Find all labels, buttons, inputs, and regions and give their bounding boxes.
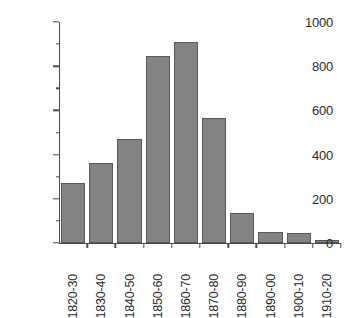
y-axis-tick-label: 800 — [312, 60, 333, 73]
bar — [230, 213, 254, 243]
y-axis-tick-label: 200 — [312, 192, 333, 205]
x-axis-tick — [256, 243, 257, 248]
x-axis-tick-label: 1870-80 — [208, 274, 221, 318]
y-axis-tick — [53, 65, 59, 66]
x-axis-tick — [143, 243, 144, 248]
bar — [61, 183, 85, 243]
x-axis-tick-label: 1830-40 — [95, 274, 108, 318]
bar — [202, 118, 226, 243]
plot-area: 02004006008001000 1820-301830-401840-501… — [59, 22, 341, 243]
x-axis-tick — [115, 243, 116, 248]
x-axis-tick-label: 1820-30 — [67, 274, 80, 318]
x-axis-tick-label: 1860-70 — [180, 274, 193, 318]
y-axis-tick — [53, 198, 59, 199]
x-axis-tick-label: 1850-60 — [152, 274, 165, 318]
x-axis-tick — [199, 243, 200, 248]
bar — [89, 163, 113, 243]
y-axis-minor-tick — [56, 132, 60, 133]
y-axis-minor-tick — [56, 88, 60, 89]
x-axis-tick — [227, 243, 228, 248]
x-axis-tick — [312, 243, 313, 248]
x-axis-tick-label: 1900-10 — [293, 274, 306, 318]
x-axis-tick-label: 1880-90 — [236, 274, 249, 318]
y-axis-minor-tick — [56, 220, 60, 221]
y-axis-tick — [53, 242, 59, 243]
x-axis-tick — [171, 243, 172, 248]
x-axis-tick-label: 1910-20 — [321, 274, 334, 318]
y-axis-tick — [53, 110, 59, 111]
x-axis-tick — [284, 243, 285, 248]
x-axis-tick-label: 1840-50 — [124, 274, 137, 318]
bar — [146, 56, 170, 243]
bar — [258, 232, 282, 243]
y-axis-tick-label: 400 — [312, 148, 333, 161]
y-axis-tick — [53, 21, 59, 22]
bar — [117, 139, 141, 243]
y-axis-tick — [53, 154, 59, 155]
bar — [287, 233, 311, 243]
y-axis-tick-label: 1000 — [305, 16, 333, 29]
x-axis-tick — [86, 243, 87, 248]
x-axis-tick-label: 1890-00 — [265, 274, 278, 318]
bar — [174, 42, 198, 243]
y-axis-tick-label: 600 — [312, 104, 333, 117]
x-axis-tick — [340, 243, 341, 248]
y-axis-minor-tick — [56, 176, 60, 177]
y-axis-minor-tick — [56, 43, 60, 44]
y-axis-tick-label: 0 — [326, 237, 333, 250]
